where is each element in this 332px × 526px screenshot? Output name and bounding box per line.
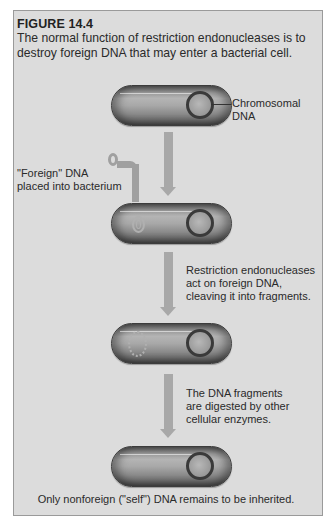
- chromosomal-dna-ring-icon: [186, 91, 214, 119]
- down-arrow-icon-3: [164, 374, 173, 430]
- figure-caption: The normal function of restriction endon…: [17, 31, 317, 60]
- bacterium-cell-stage-2: [111, 203, 232, 244]
- step-3-label-line-2: are digested by other: [186, 400, 289, 413]
- cell-highlight: [120, 93, 201, 94]
- bacterium-cell-stage-3: [111, 323, 232, 364]
- dna-fragments-icon: [128, 331, 147, 357]
- figure-number: FIGURE 14.4: [17, 17, 93, 31]
- step-2-label-line-2: act on foreign DNA,: [186, 277, 315, 290]
- chromosomal-dna-leader-line: [211, 104, 231, 105]
- final-caption: Only nonforeign ("self") DNA remains to …: [0, 493, 332, 506]
- foreign-dna-label: "Foreign" DNA placed into bacterium: [17, 167, 122, 193]
- chromosomal-dna-label-line-1: Chromosomal: [232, 97, 300, 110]
- cell-highlight: [120, 211, 201, 212]
- cell-highlight: [120, 454, 201, 455]
- inserted-foreign-dna-inner-icon: [136, 220, 141, 229]
- foreign-dna-label-line-1: "Foreign" DNA: [17, 167, 122, 180]
- down-arrow-icon-1: [164, 132, 173, 188]
- chromosomal-dna-ring-icon: [186, 329, 214, 357]
- step-2-label: Restriction endonucleases act on foreign…: [186, 264, 315, 303]
- foreign-dna-label-line-2: placed into bacterium: [17, 180, 122, 193]
- chromosomal-dna-ring-icon: [186, 452, 214, 480]
- down-arrow-icon-2: [164, 252, 173, 308]
- caption-line-2: destroy foreign DNA that may enter a bac…: [17, 46, 317, 61]
- step-3-label-line-3: cellular enzymes.: [186, 413, 289, 426]
- step-3-label-line-1: The DNA fragments: [186, 387, 289, 400]
- foreign-dna-tube-vertical: [132, 164, 139, 202]
- step-2-label-line-3: cleaving it into fragments.: [186, 290, 315, 303]
- chromosomal-dna-label: Chromosomal DNA: [232, 97, 300, 123]
- bacterium-cell-stage-1: [111, 85, 232, 126]
- step-3-label: The DNA fragments are digested by other …: [186, 387, 289, 426]
- bacterium-cell-stage-4: [111, 446, 232, 487]
- chromosomal-dna-ring-icon: [186, 209, 214, 237]
- caption-line-1: The normal function of restriction endon…: [17, 31, 317, 46]
- chromosomal-dna-label-line-2: DNA: [232, 110, 300, 123]
- step-2-label-line-1: Restriction endonucleases: [186, 264, 315, 277]
